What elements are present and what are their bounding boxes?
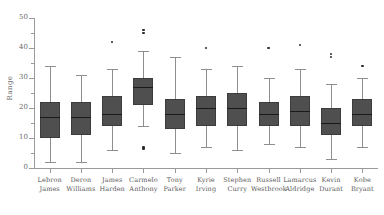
x-category-label: LamarcusAldridge [282,176,317,193]
x-category-label-line: Deron [63,176,98,185]
whisker-cap-upper [201,69,212,70]
x-category-label-line: Kevin [313,176,348,185]
y-tick-label-wrap: 50 [0,14,28,22]
whisker-cap-upper [76,75,87,76]
outlier-point [205,47,207,49]
whisker-cap-upper [45,66,56,67]
y-tick-label: 0 [2,164,28,171]
median-line [40,117,60,118]
x-category-label: LebronJames [32,176,67,193]
whisker-cap-lower [264,144,275,145]
whisker-cap-lower [138,126,149,127]
x-category-label: JamesHarden [95,176,130,193]
x-tick-mark [81,169,82,173]
x-category-label-line: Tony [157,176,192,185]
box-iqr-rect [352,99,372,126]
x-category-label-line: Lebron [32,176,67,185]
whisker-cap-lower [170,153,181,154]
y-tick-label: 30 [2,74,28,81]
outlier-point [361,65,363,67]
whisker-cap-lower [107,150,118,151]
median-line [71,117,91,118]
x-category-label-line: Durant [313,185,348,194]
box-iqr-rect [321,108,341,135]
y-tick-mark [29,78,34,79]
x-category-label-line: Curry [220,185,255,194]
box-iqr-rect [196,96,216,126]
outlier-point [142,32,144,34]
x-category-label: CarmeloAnthony [126,176,161,193]
x-category-label-line: Russell [251,176,286,185]
whisker-cap-upper [138,51,149,52]
whisker-cap-upper [170,57,181,58]
x-category-label-line: Stephen [220,176,255,185]
x-category-label-line: Aldridge [282,185,317,194]
median-line [290,111,310,112]
x-tick-mark [331,169,332,173]
y-tick-label-wrap: 40 [0,44,28,52]
y-tick-mark [29,138,34,139]
whisker-cap-lower [295,147,306,148]
y-tick-label: 20 [2,104,28,111]
y-tick-minor-mark [31,33,34,34]
x-category-label-line: Carmelo [126,176,161,185]
x-category-label-line: Williams [63,185,98,194]
median-line [352,114,372,115]
y-tick-label: 10 [2,134,28,141]
y-tick-label-wrap: 30 [0,74,28,82]
x-tick-mark [362,169,363,173]
box-iqr-rect [40,102,60,138]
x-tick-mark [206,169,207,173]
box-plot-chart: Range 01020304050 LebronJamesDeronWillia… [0,0,384,215]
x-category-label-line: Kobe [345,176,380,185]
median-line [196,108,216,109]
outlier-point [267,47,269,49]
x-tick-mark [143,169,144,173]
y-tick-label: 40 [2,44,28,51]
outlier-point [111,41,113,43]
x-category-label-line: Bryant [345,185,380,194]
box-iqr-rect [102,96,122,126]
y-tick-mark [29,18,34,19]
x-category-label: KyrieIrving [188,176,223,193]
whisker-cap-upper [357,78,368,79]
x-category-label: KobeBryant [345,176,380,193]
x-category-label-line: James [95,176,130,185]
x-category-label-line: Parker [157,185,192,194]
whisker-cap-lower [201,147,212,148]
x-category-label-line: Irving [188,185,223,194]
outlier-point [142,29,144,31]
whisker-cap-upper [107,69,118,70]
x-tick-mark [175,169,176,173]
x-category-label-line: Harden [95,185,130,194]
x-tick-mark [300,169,301,173]
y-tick-minor-mark [31,153,34,154]
y-axis-line [34,18,35,168]
x-tick-mark [50,169,51,173]
whisker-cap-upper [295,69,306,70]
median-line [102,114,122,115]
whisker-cap-upper [232,66,243,67]
whisker-cap-lower [357,147,368,148]
y-tick-label-wrap: 10 [0,134,28,142]
y-tick-label: 50 [2,14,28,21]
outlier-point [142,147,144,149]
y-tick-mark [29,108,34,109]
y-tick-label-wrap: 0 [0,164,28,172]
y-tick-mark [29,48,34,49]
x-category-label-line: Lamarcus [282,176,317,185]
x-tick-mark [269,169,270,173]
y-tick-minor-mark [31,63,34,64]
whisker-cap-lower [45,162,56,163]
box-iqr-rect [227,93,247,126]
x-category-label-line: Anthony [126,185,161,194]
outlier-point [330,53,332,55]
y-tick-label-wrap: 20 [0,104,28,112]
y-tick-minor-mark [31,93,34,94]
box-iqr-rect [71,102,91,135]
whisker-cap-lower [76,162,87,163]
whisker-cap-upper [264,78,275,79]
x-tick-mark [112,169,113,173]
x-category-label-line: James [32,185,67,194]
whisker-cap-lower [232,150,243,151]
